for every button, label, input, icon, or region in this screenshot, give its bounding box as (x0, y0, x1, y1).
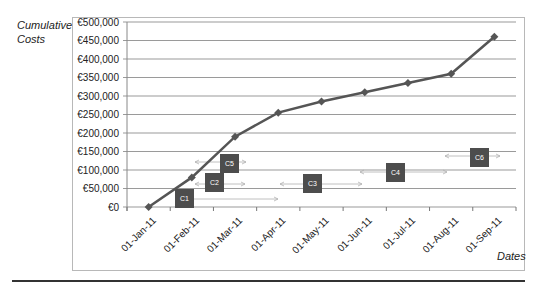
x-tick-label: 01-Sep-11 (464, 214, 505, 255)
x-axis: 01-Jan-1101-Feb-1101-Mar-1101-Apr-1101-M… (119, 207, 516, 256)
x-tick-label: 01-May-11 (290, 214, 331, 255)
y-tick-label: €50,000 (83, 183, 120, 194)
annotation-label: C4 (391, 169, 400, 176)
y-tick-label: €450,000 (77, 35, 119, 46)
x-tick-label: 01-Aug-11 (420, 214, 461, 255)
diamond-marker-icon (404, 79, 412, 87)
annotation-c3: C3 (280, 174, 362, 193)
annotation-label: C5 (225, 160, 234, 167)
x-axis-title: Dates (497, 250, 526, 262)
y-tick-label: €100,000 (77, 165, 119, 176)
y-tick-label: €0 (108, 202, 120, 213)
x-tick-label: 01-Jul-11 (381, 214, 418, 251)
y-axis-ticks: €0€50,000€100,000€150,000€200,000€250,00… (77, 17, 119, 213)
y-tick-label: €350,000 (77, 72, 119, 83)
diamond-marker-icon (318, 98, 326, 106)
diamond-marker-icon (361, 88, 369, 96)
annotation-c2: C2 (195, 173, 245, 192)
x-tick-label: 01-Apr-11 (249, 214, 288, 253)
annotation-label: C6 (475, 154, 484, 161)
y-tick-label: €250,000 (77, 109, 119, 120)
y-tick-label: €500,000 (77, 17, 119, 28)
annotation-label: C2 (210, 179, 219, 186)
y-tick-label: €400,000 (77, 54, 119, 65)
y-tick-label: €300,000 (77, 91, 119, 102)
annotation-c4: C4 (360, 163, 447, 182)
y-tick-label: €150,000 (77, 146, 119, 157)
cost-annotations: C1C2C5C3C4C6 (175, 148, 500, 208)
annotation-c1: C1 (175, 189, 278, 208)
annotation-label: C3 (308, 180, 317, 187)
y-tick-label: €200,000 (77, 128, 119, 139)
annotation-label: C1 (180, 195, 189, 202)
annotation-c6: C6 (445, 148, 500, 167)
x-tick-label: 01-Feb-11 (161, 214, 201, 254)
x-tick-label: 01-Mar-11 (205, 214, 245, 254)
x-tick-label: 01-Jun-11 (335, 214, 374, 253)
cumulative-cost-chart: €0€50,000€100,000€150,000€200,000€250,00… (0, 0, 546, 285)
x-tick-label: 01-Jan-11 (119, 214, 158, 253)
